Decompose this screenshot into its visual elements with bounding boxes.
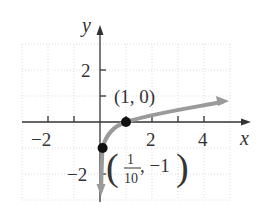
x-axis-arrow-icon	[241, 119, 251, 126]
tick-label-y-neg2: −2	[67, 164, 87, 185]
log-graph: y x −2 2 4 2 −2 (1, 0) ( 1 10 , −1 )	[0, 0, 270, 208]
tick-label-x-4: 4	[198, 129, 208, 150]
fraction-denominator: 10	[124, 171, 138, 186]
tick-label-y-2: 2	[81, 60, 91, 81]
point-label-tenth-neg1: ( 1 10 , −1 )	[106, 146, 189, 189]
paren-close: )	[176, 146, 189, 189]
x-axis-label: x	[239, 127, 249, 149]
y-axis-arrow-icon	[97, 25, 104, 35]
point-label-1-0: (1, 0)	[114, 86, 155, 108]
paren-open: (	[106, 146, 119, 189]
curve-arrow-icon	[216, 96, 229, 106]
tick-label-x-neg2: −2	[31, 129, 51, 150]
point-1-0	[121, 117, 131, 127]
fraction-numerator: 1	[127, 152, 134, 167]
curve-down-arrow-icon	[97, 184, 106, 196]
coordinate-rest: , −1	[140, 155, 170, 176]
y-axis-label: y	[80, 14, 91, 37]
tick-label-x-2: 2	[146, 129, 156, 150]
